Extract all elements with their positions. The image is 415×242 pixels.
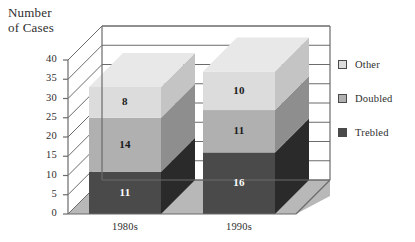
legend-label: Other bbox=[355, 59, 380, 70]
legend-label: Trebled bbox=[355, 127, 389, 138]
bar-value-label: 8 bbox=[89, 95, 161, 107]
bar-value-label: 14 bbox=[89, 138, 161, 150]
legend-item-doubled[interactable]: Doubled bbox=[338, 92, 412, 105]
y-axis-tick-label: 0 bbox=[31, 207, 57, 218]
y-axis-tick-label: 15 bbox=[31, 149, 57, 160]
legend-swatch-icon bbox=[338, 94, 347, 103]
y-axis-tick-label: 40 bbox=[31, 53, 57, 64]
bar-value-label: 11 bbox=[89, 186, 161, 198]
axis-ticks bbox=[63, 60, 68, 214]
y-axis-tick-label: 35 bbox=[31, 72, 57, 83]
legend-label: Doubled bbox=[355, 93, 393, 104]
bar-value-label: 16 bbox=[203, 176, 275, 188]
chart-container: Number of Cases 0510152025303540 1980s19… bbox=[0, 0, 415, 242]
y-axis-tick-label: 10 bbox=[31, 169, 57, 180]
legend-item-trebled[interactable]: Trebled bbox=[338, 126, 412, 139]
y-axis-tick-label: 25 bbox=[31, 111, 57, 122]
bar-value-label: 11 bbox=[203, 124, 275, 136]
y-axis-tick-label: 5 bbox=[31, 188, 57, 199]
y-axis-title: Number of Cases bbox=[8, 5, 54, 35]
x-axis-tick-label: 1980s bbox=[75, 221, 175, 232]
legend-item-other[interactable]: Other bbox=[338, 58, 412, 71]
legend-swatch-icon bbox=[338, 60, 347, 69]
depth-gridline bbox=[68, 26, 102, 60]
y-axis-tick-label: 30 bbox=[31, 92, 57, 103]
x-axis-tick-label: 1990s bbox=[189, 221, 289, 232]
depth-gridline bbox=[68, 45, 102, 79]
bar-value-label: 10 bbox=[203, 84, 275, 96]
y-axis-tick-label: 20 bbox=[31, 130, 57, 141]
legend-swatch-icon bbox=[338, 128, 347, 137]
chart-legend: OtherDoubledTrebled bbox=[338, 58, 412, 160]
